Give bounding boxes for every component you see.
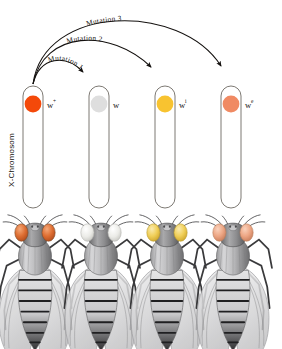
allele-superscript: e <box>251 98 254 104</box>
chromosome-group: w <box>89 86 120 208</box>
chromosome-group: w + <box>23 86 56 208</box>
mutation-label-1: Mutation 1 <box>47 53 86 71</box>
allele-label: w <box>113 100 120 110</box>
allele-dot <box>91 96 108 113</box>
chromosome-group: w e <box>221 86 254 208</box>
allele-dot <box>157 96 174 113</box>
mutation-label-2: Mutation 2 <box>66 33 104 45</box>
figure-canvas: Mutation 1 Mutation 2 Mutation 3 w + w <box>0 0 282 349</box>
chromosome-group: w i <box>155 86 187 208</box>
x-chromosome-axis-label: X-Chromosom <box>7 133 16 187</box>
allele-superscript: i <box>185 98 187 104</box>
chromosome-diagram-layer: Mutation 1 Mutation 2 Mutation 3 w + w <box>0 0 282 349</box>
allele-dot <box>25 96 42 113</box>
allele-superscript: + <box>53 98 56 104</box>
mutation-arrow-3 <box>33 21 221 84</box>
allele-dot <box>223 96 240 113</box>
mutation-label-3: Mutation 3 <box>85 14 122 28</box>
mutation-arrows: Mutation 1 Mutation 2 Mutation 3 <box>33 14 221 84</box>
